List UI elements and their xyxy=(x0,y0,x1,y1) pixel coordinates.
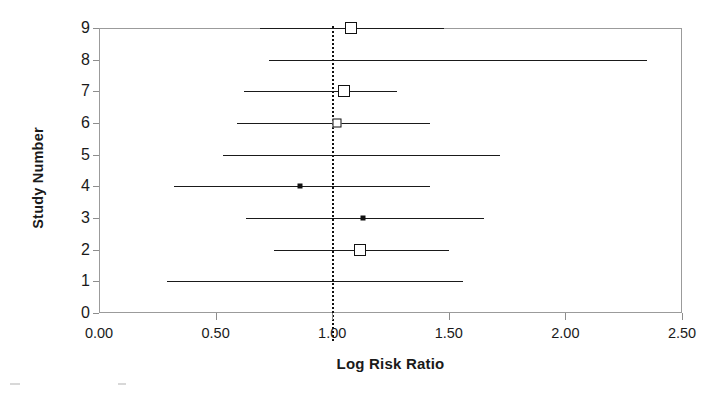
y-tick-mark xyxy=(93,313,99,314)
y-tick-label: 1 xyxy=(81,272,90,290)
y-tick-label: 0 xyxy=(81,304,90,322)
y-tick-label: 9 xyxy=(81,19,90,37)
effect-estimate-marker xyxy=(332,119,341,128)
confidence-interval-line xyxy=(269,60,647,61)
confidence-interval-line xyxy=(223,155,501,156)
y-tick-label: 2 xyxy=(81,241,90,259)
x-tick-mark xyxy=(332,313,333,320)
effect-estimate-marker xyxy=(338,85,350,97)
x-tick-label: 1.50 xyxy=(435,325,463,341)
x-tick-label: 0.50 xyxy=(201,325,229,341)
y-tick-label: 6 xyxy=(81,114,90,132)
confidence-interval-line xyxy=(244,91,398,92)
y-tick-label: 5 xyxy=(81,146,90,164)
y-tick-mark xyxy=(93,281,99,282)
y-tick-mark xyxy=(93,218,99,219)
x-tick-label: 1.00 xyxy=(318,325,346,341)
forest-plot-figure: Study Number 01234567890.000.501.001.502… xyxy=(0,0,726,403)
y-tick-mark xyxy=(93,123,99,124)
effect-estimate-marker xyxy=(354,244,366,256)
y-tick-label: 7 xyxy=(81,82,90,100)
x-tick-mark xyxy=(216,313,217,320)
x-axis-title: Log Risk Ratio xyxy=(99,355,682,372)
effect-estimate-marker xyxy=(345,22,357,34)
y-tick-mark xyxy=(93,28,99,29)
x-tick-label: 2.00 xyxy=(551,325,579,341)
y-tick-label: 4 xyxy=(81,177,90,195)
plot-area: 01234567890.000.501.001.502.002.50 xyxy=(99,28,682,313)
effect-estimate-marker xyxy=(297,184,302,189)
x-tick-mark xyxy=(449,313,450,320)
y-tick-mark xyxy=(93,60,99,61)
null-reference-line xyxy=(332,26,334,341)
x-tick-mark xyxy=(565,313,566,320)
scan-artifact xyxy=(10,383,20,385)
y-tick-mark xyxy=(93,250,99,251)
effect-estimate-marker xyxy=(360,216,365,221)
x-tick-mark xyxy=(682,313,683,320)
scan-artifact xyxy=(118,383,126,385)
x-tick-label: 0.00 xyxy=(85,325,113,341)
y-tick-mark xyxy=(93,186,99,187)
y-tick-label: 8 xyxy=(81,51,90,69)
y-axis-title: Study Number xyxy=(30,78,46,278)
x-tick-label: 2.50 xyxy=(668,325,696,341)
confidence-interval-line xyxy=(167,281,463,282)
y-tick-mark xyxy=(93,91,99,92)
y-tick-label: 3 xyxy=(81,209,90,227)
y-tick-mark xyxy=(93,155,99,156)
